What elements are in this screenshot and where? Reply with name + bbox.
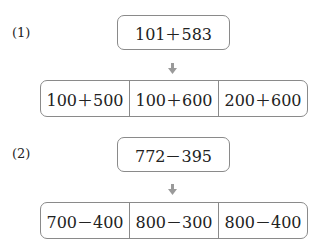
arrow-down-icon [168, 63, 177, 74]
arrow-down-icon [168, 184, 177, 195]
estimate-option[interactable]: 700－400 [41, 203, 129, 238]
estimate-option[interactable]: 100＋500 [41, 81, 129, 116]
option-text: 800－300 [135, 209, 212, 233]
expression-text: 101＋583 [135, 21, 212, 45]
option-text: 700－400 [46, 209, 123, 233]
estimate-options-row: 700－400 800－300 800－400 [40, 202, 308, 239]
option-text: 100＋600 [135, 87, 212, 111]
problem-label: (2) [12, 146, 30, 161]
estimate-option[interactable]: 800－300 [129, 203, 218, 238]
option-text: 800－400 [224, 209, 301, 233]
estimate-options-row: 100＋500 100＋600 200＋600 [40, 80, 308, 117]
estimate-option[interactable]: 800－400 [218, 203, 307, 238]
problem-label: (1) [12, 25, 30, 40]
expression-text: 772－395 [135, 143, 212, 167]
estimate-option[interactable]: 100＋600 [129, 81, 218, 116]
expression-box: 772－395 [117, 137, 230, 172]
expression-box: 101＋583 [117, 15, 230, 50]
estimate-option[interactable]: 200＋600 [218, 81, 307, 116]
option-text: 200＋600 [224, 87, 301, 111]
option-text: 100＋500 [46, 87, 123, 111]
